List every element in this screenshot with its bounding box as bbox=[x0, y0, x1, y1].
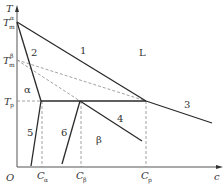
x-axis-label: c bbox=[214, 171, 220, 182]
tm-beta-label: T m β bbox=[3, 52, 15, 68]
y-axis-arrow-icon bbox=[15, 5, 19, 12]
guide-lines bbox=[17, 60, 146, 167]
c-alpha-sub: α bbox=[44, 176, 48, 183]
tm-beta-to-cp-dashed bbox=[17, 60, 146, 101]
c-alpha-label: C α bbox=[37, 170, 48, 183]
c-p-sub: p bbox=[148, 176, 152, 184]
tm-beta-sub: m bbox=[9, 61, 15, 68]
tm-alpha-sub: m bbox=[9, 23, 15, 30]
phase-boundaries bbox=[17, 22, 212, 166]
c-beta-label: C β bbox=[76, 170, 87, 184]
origin-label: O bbox=[6, 172, 14, 183]
tm-beta-sup: β bbox=[10, 52, 14, 60]
curve-number-2: 2 bbox=[31, 47, 37, 58]
phase-diagram: T c O T m α T m β T p C α C β C p 1 2 3 … bbox=[0, 0, 224, 187]
curve-3 bbox=[146, 101, 212, 123]
axes bbox=[15, 5, 223, 169]
region-liquid-label: L bbox=[139, 47, 146, 58]
c-beta-sub: β bbox=[83, 176, 87, 184]
curve-number-3: 3 bbox=[184, 99, 190, 110]
tm-alpha-label: T m α bbox=[3, 14, 15, 30]
tm-alpha-sup: α bbox=[10, 14, 14, 21]
curve-1-liquidus bbox=[17, 22, 146, 101]
curve-4 bbox=[80, 101, 142, 141]
x-axis-arrow-icon bbox=[216, 165, 223, 169]
tp-sub: p bbox=[10, 101, 14, 109]
curve-number-5: 5 bbox=[27, 127, 33, 138]
region-beta-label: β bbox=[96, 134, 102, 145]
region-alpha-label: α bbox=[24, 84, 31, 95]
curve-number-4: 4 bbox=[117, 113, 123, 124]
curve-number-1: 1 bbox=[80, 45, 86, 56]
y-axis-label: T bbox=[6, 3, 14, 14]
tp-label: T p bbox=[4, 96, 14, 109]
curve-number-6: 6 bbox=[61, 127, 67, 138]
c-p-label: C p bbox=[141, 170, 152, 184]
